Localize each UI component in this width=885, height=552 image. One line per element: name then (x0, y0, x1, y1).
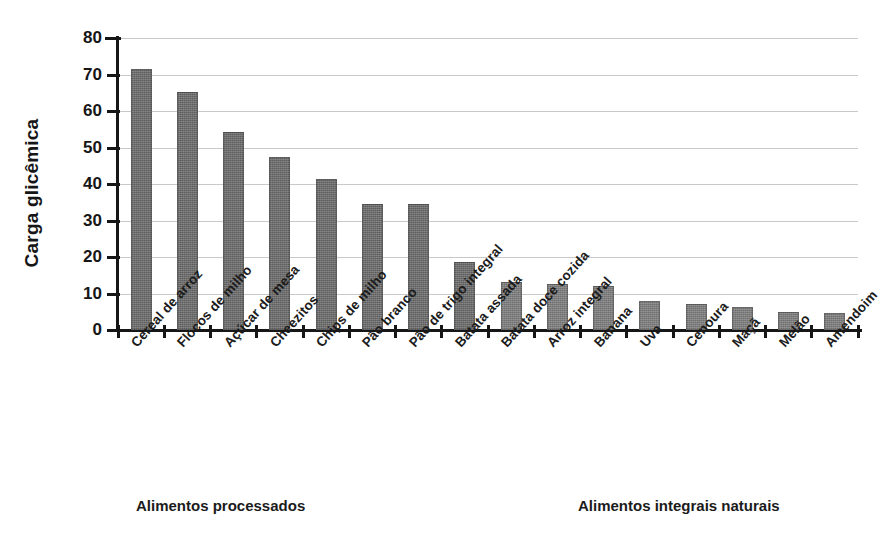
x-axis-tick (764, 325, 767, 338)
x-axis-tick (302, 325, 305, 338)
y-axis-tick (107, 256, 120, 259)
gridline (118, 38, 858, 39)
y-axis-title: Carga glicêmica (21, 83, 43, 303)
y-axis-tick (107, 74, 120, 77)
x-axis-tick (579, 325, 582, 338)
x-axis-tick (163, 325, 166, 338)
x-axis-tick (625, 325, 628, 338)
x-axis-tick (394, 325, 397, 338)
x-axis-tick (533, 325, 536, 338)
x-axis-tick (857, 325, 860, 338)
bar (131, 69, 152, 330)
x-axis-tick (718, 325, 721, 338)
bar (316, 179, 337, 330)
x-axis-tick (810, 325, 813, 338)
y-axis-tick-label: 40 (56, 174, 102, 194)
y-axis-tick-label: 70 (56, 65, 102, 85)
group-caption-processed: Alimentos processados (136, 497, 305, 514)
x-axis-tick (487, 325, 490, 338)
x-axis-tick (255, 325, 258, 338)
y-axis-tick-label: 50 (56, 138, 102, 158)
bar (408, 204, 429, 330)
group-caption-natural: Alimentos integrais naturais (578, 497, 780, 514)
y-axis-tick (105, 37, 121, 40)
x-axis-tick (348, 325, 351, 338)
y-axis-tick-label: 20 (56, 247, 102, 267)
y-axis-tick (107, 220, 120, 223)
y-axis-tick-label: 80 (56, 28, 102, 48)
y-axis-tick-label: 0 (56, 320, 102, 340)
x-axis-tick (209, 325, 212, 338)
y-axis-tick (107, 110, 120, 113)
glycemic-load-bar-chart: Carga glicêmica 01020304050607080 Cereal… (0, 0, 885, 552)
gridline (118, 111, 858, 112)
gridline (118, 75, 858, 76)
y-axis-tick-label: 10 (56, 284, 102, 304)
x-axis-tick (672, 325, 675, 338)
x-axis-tick (440, 325, 443, 338)
y-axis-tick-label: 30 (56, 211, 102, 231)
y-axis-tick-label: 60 (56, 101, 102, 121)
y-axis-tick (107, 147, 120, 150)
x-axis-tick (117, 325, 120, 338)
y-axis-tick (107, 293, 120, 296)
y-axis-tick (107, 183, 120, 186)
